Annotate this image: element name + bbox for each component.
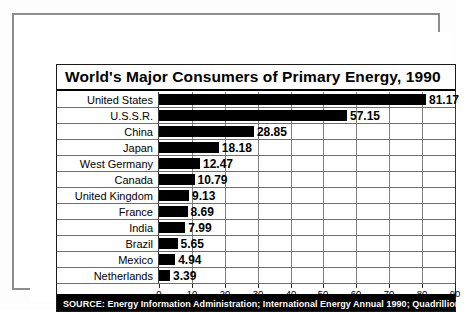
category-label: India — [57, 220, 159, 235]
chart-row: U.S.S.R.57.15 — [57, 108, 455, 124]
gridline — [455, 268, 456, 283]
gridline — [356, 252, 357, 267]
category-label: Mexico — [57, 252, 159, 267]
bar — [159, 126, 254, 137]
bar-cell: 18.18 — [159, 140, 455, 155]
gridline — [258, 204, 259, 219]
bar-cell: 81.17 — [159, 92, 455, 107]
gridline — [455, 204, 456, 219]
gridline — [323, 268, 324, 283]
bar-cell: 9.13 — [159, 188, 455, 203]
gridline — [356, 172, 357, 187]
bar — [159, 190, 189, 201]
bar — [159, 238, 178, 249]
gridline — [225, 204, 226, 219]
bar-cell: 3.39 — [159, 268, 455, 283]
bar — [159, 110, 347, 121]
gridline — [258, 236, 259, 251]
gridline — [455, 252, 456, 267]
gridline — [323, 172, 324, 187]
gridline — [323, 252, 324, 267]
value-label: 12.47 — [200, 156, 233, 172]
gridline — [356, 124, 357, 139]
gridline — [455, 220, 456, 235]
chart-row: India7.99 — [57, 220, 455, 236]
gridline — [225, 188, 226, 203]
gridline — [323, 156, 324, 171]
bar-cell: 57.15 — [159, 108, 455, 123]
gridline — [422, 156, 423, 171]
gridline — [422, 236, 423, 251]
chart-row: United Kingdom9.13 — [57, 188, 455, 204]
category-label: France — [57, 204, 159, 219]
gridline — [225, 220, 226, 235]
gridline — [225, 268, 226, 283]
chart-row: United States81.17 — [57, 92, 455, 108]
gridline — [323, 124, 324, 139]
gridline — [291, 252, 292, 267]
bar-cell: 5.65 — [159, 236, 455, 251]
bar — [159, 206, 188, 217]
category-label: Canada — [57, 172, 159, 187]
gridline — [258, 188, 259, 203]
category-label: United Kingdom — [57, 188, 159, 203]
chart-row: Netherlands3.39 — [57, 268, 455, 284]
gridline — [291, 172, 292, 187]
gridline — [389, 268, 390, 283]
value-label: 8.69 — [188, 204, 214, 220]
chart-title-bar: World's Major Consumers of Primary Energ… — [57, 65, 455, 91]
bar — [159, 254, 175, 265]
chart-title: World's Major Consumers of Primary Energ… — [57, 68, 441, 86]
gridline — [455, 140, 456, 155]
gridline — [323, 188, 324, 203]
gridline — [356, 220, 357, 235]
value-label: 28.85 — [254, 124, 287, 140]
gridline — [291, 124, 292, 139]
chart-row: France8.69 — [57, 204, 455, 220]
gridline — [258, 220, 259, 235]
gridline — [258, 268, 259, 283]
bar-cell: 12.47 — [159, 156, 455, 171]
value-label: 57.15 — [347, 108, 380, 124]
gridline — [258, 140, 259, 155]
gridline — [291, 188, 292, 203]
category-label: Japan — [57, 140, 159, 155]
gridline — [356, 188, 357, 203]
value-label: 4.94 — [175, 252, 201, 268]
chart-row: China28.85 — [57, 124, 455, 140]
value-label: 9.13 — [189, 188, 215, 204]
gridline — [455, 236, 456, 251]
chart-rows: United States81.17U.S.S.R.57.15China28.8… — [57, 92, 455, 284]
bar — [159, 158, 200, 169]
value-label: 10.79 — [195, 172, 228, 188]
chart-row: Canada10.79 — [57, 172, 455, 188]
gridline — [225, 252, 226, 267]
gridline — [291, 236, 292, 251]
gridline — [389, 172, 390, 187]
gridline — [356, 156, 357, 171]
gridline — [258, 252, 259, 267]
gridline — [389, 140, 390, 155]
gridline — [258, 172, 259, 187]
chart-container: World's Major Consumers of Primary Energ… — [56, 64, 456, 312]
gridline — [422, 268, 423, 283]
chart-row: Brazil5.65 — [57, 236, 455, 252]
gridline — [356, 268, 357, 283]
gridline — [389, 124, 390, 139]
bar-cell: 7.99 — [159, 220, 455, 235]
chart-row: Japan18.18 — [57, 140, 455, 156]
bar — [159, 142, 219, 153]
category-label: China — [57, 124, 159, 139]
gridline — [455, 124, 456, 139]
gridline — [455, 108, 456, 123]
value-label: 7.99 — [185, 220, 211, 236]
chart-row: Mexico4.94 — [57, 252, 455, 268]
bar — [159, 174, 195, 185]
gridline — [389, 252, 390, 267]
inner-frame: World's Major Consumers of Primary Energ… — [30, 32, 450, 301]
gridline — [323, 140, 324, 155]
gridline — [422, 252, 423, 267]
gridline — [422, 220, 423, 235]
bar — [159, 222, 185, 233]
